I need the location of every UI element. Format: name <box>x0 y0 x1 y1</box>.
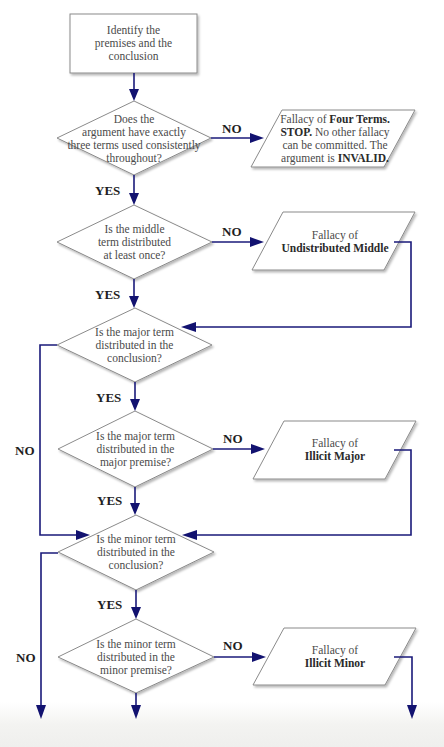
decision-line: Is the major term <box>57 326 212 339</box>
yes-label: YES <box>95 183 120 199</box>
decision-line: argument have exactly <box>57 126 211 139</box>
fallacy-line: STOP. No other fallacy <box>262 126 408 139</box>
fallacy-text-undistributed-middle: Fallacy of Undistributed Middle <box>265 229 405 255</box>
decision-text-major-in-premise: Is the major term distributed in the maj… <box>58 430 213 469</box>
decision-line: Is the major term <box>58 430 213 443</box>
decision-line: at least once? <box>57 249 212 262</box>
yes-label: YES <box>97 597 122 613</box>
fallacy-line: Fallacy of Four Terms. <box>262 113 408 126</box>
fallacy-text: argument is <box>281 152 338 164</box>
no-label: NO <box>223 431 243 447</box>
fallacy-name: Illicit Minor <box>305 657 365 669</box>
fallacy-text: No other fallacy <box>312 126 390 138</box>
decision-line: Is the middle <box>57 223 212 236</box>
start-line: Identify the <box>70 24 197 37</box>
no-label: NO <box>16 650 36 666</box>
decision-line: Does the <box>57 113 211 126</box>
stop-text: STOP. <box>280 126 312 138</box>
fallacy-text: Fallacy of <box>280 113 329 125</box>
yes-label: YES <box>97 493 122 509</box>
fallacy-line: Fallacy of <box>265 644 405 657</box>
fallacy-name: Illicit Major <box>305 450 365 462</box>
fallacy-text-illicit-minor: Fallacy of Illicit Minor <box>265 644 405 670</box>
connectors <box>36 73 417 719</box>
decision-line: Is the minor term <box>58 638 214 651</box>
decision-line: three terms used consistently <box>57 139 211 152</box>
decision-text-minor-in-conclusion: Is the minor term distributed in the con… <box>58 533 214 572</box>
decision-line: distributed in the <box>58 443 213 456</box>
fallacy-line: Illicit Minor <box>265 657 405 670</box>
decision-text-three-terms: Does the argument have exactly three ter… <box>57 113 211 165</box>
fallacy-name: Four Terms. <box>329 113 390 125</box>
decision-text-middle-distributed: Is the middle term distributed at least … <box>57 223 212 262</box>
start-line: premises and the <box>70 37 197 50</box>
fallacy-line: Undistributed Middle <box>265 242 405 255</box>
decision-line: conclusion? <box>57 352 212 365</box>
yes-label: YES <box>96 390 121 406</box>
fallacy-text-four-terms: Fallacy of Four Terms. STOP. No other fa… <box>262 113 408 165</box>
fallacy-line: argument is INVALID. <box>262 152 408 165</box>
no-label: NO <box>222 224 242 240</box>
fallacy-line: Illicit Major <box>265 450 405 463</box>
decision-text-major-in-conclusion: Is the major term distributed in the con… <box>57 326 212 365</box>
invalid-text: INVALID. <box>338 152 389 164</box>
decision-line: major premise? <box>58 456 213 469</box>
decision-line: term distributed <box>57 236 212 249</box>
decision-line: distributed in the <box>58 651 214 664</box>
fallacy-flowchart: Identify the premises and the conclusion… <box>0 0 444 747</box>
decision-line: throughout? <box>57 152 211 165</box>
no-label: NO <box>15 443 35 459</box>
decision-line: minor premise? <box>58 664 214 677</box>
no-label: NO <box>223 638 243 654</box>
start-line: conclusion <box>70 50 197 63</box>
decision-line: conclusion? <box>58 559 214 572</box>
decision-line: Is the minor term <box>58 533 214 546</box>
no-label: NO <box>222 121 242 137</box>
fallacy-name: Undistributed Middle <box>281 242 388 254</box>
fallacy-text-illicit-major: Fallacy of Illicit Major <box>265 437 405 463</box>
decision-line: distributed in the <box>58 546 214 559</box>
fallacy-line: can be committed. The <box>262 139 408 152</box>
fallacy-line: Fallacy of <box>265 437 405 450</box>
start-box-text: Identify the premises and the conclusion <box>70 24 197 63</box>
fallacy-line: Fallacy of <box>265 229 405 242</box>
yes-label: YES <box>95 287 120 303</box>
decision-line: distributed in the <box>57 339 212 352</box>
decision-text-minor-in-premise: Is the minor term distributed in the min… <box>58 638 214 677</box>
